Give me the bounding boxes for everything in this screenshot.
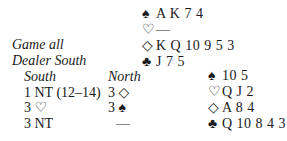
auction-row-3-south: 3 NT	[24, 116, 53, 132]
north-hearts: ♡—	[142, 22, 235, 38]
auction-header-north: North	[108, 69, 141, 85]
spade-icon: ♠	[208, 68, 222, 84]
east-clubs: ♣Q 10 8 4 3	[208, 116, 286, 132]
east-spades: ♠10 5	[208, 68, 286, 84]
auction-header-south: South	[24, 69, 56, 85]
spade-icon: ♠	[142, 6, 156, 22]
vulnerability-label: Game all	[12, 37, 64, 53]
dealer-label: Dealer South	[12, 53, 86, 69]
north-diamonds: ◇K Q 10 9 5 3	[142, 38, 235, 54]
diamond-icon: ◇	[208, 100, 222, 116]
auction-row-1-south: 1 NT (12–14)	[24, 85, 101, 101]
heart-icon: ♡	[208, 84, 222, 100]
heart-icon: ♡	[142, 22, 156, 38]
auction-row-1-north: 3 ◇	[108, 85, 129, 101]
auction-row-2-north: 3 ♠	[108, 100, 126, 116]
east-hand: ♠10 5 ♡Q J 2 ◇A 8 4 ♣Q 10 8 4 3	[208, 68, 286, 132]
east-diamonds: ◇A 8 4	[208, 100, 286, 116]
club-icon: ♣	[208, 116, 222, 132]
diamond-icon: ◇	[142, 38, 156, 54]
north-spades: ♠A K 7 4	[142, 6, 235, 22]
auction-row-3-north: —	[116, 116, 130, 132]
north-hand: ♠A K 7 4 ♡— ◇K Q 10 9 5 3 ♣J 7 5	[142, 6, 235, 70]
club-icon: ♣	[142, 54, 156, 70]
east-hearts: ♡Q J 2	[208, 84, 286, 100]
auction-row-2-south: 3 ♡	[24, 100, 47, 116]
